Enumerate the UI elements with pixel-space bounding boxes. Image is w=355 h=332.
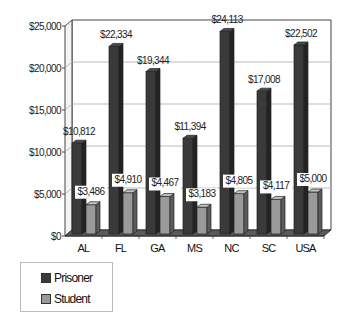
svg-text:$20,000: $20,000 — [29, 63, 62, 74]
svg-text:$4,467: $4,467 — [152, 177, 180, 188]
svg-text:$5,000: $5,000 — [34, 189, 62, 200]
legend-label: Student — [54, 292, 90, 306]
legend-item-prisoner: Prisoner — [41, 271, 92, 285]
bar-prisoner-ga — [146, 69, 160, 234]
svg-text:$4,910: $4,910 — [115, 174, 143, 185]
bar-prisoner-sc — [257, 88, 271, 234]
bar-prisoner-fl — [109, 43, 123, 234]
svg-text:$25,000: $25,000 — [29, 21, 62, 32]
svg-text:$4,805: $4,805 — [226, 175, 254, 186]
svg-text:NC: NC — [224, 242, 239, 254]
bar-student-al — [86, 202, 100, 234]
svg-text:$17,008: $17,008 — [248, 74, 281, 85]
bar-student-ms — [197, 204, 211, 234]
prisoner-swatch-icon — [41, 273, 51, 283]
svg-text:MS: MS — [187, 242, 202, 254]
svg-text:$0: $0 — [51, 231, 62, 242]
svg-text:$15,000: $15,000 — [29, 105, 62, 116]
svg-text:$19,344: $19,344 — [137, 55, 170, 66]
svg-text:USA: USA — [295, 242, 317, 254]
svg-text:$5,000: $5,000 — [300, 173, 328, 184]
bar-student-fl — [123, 190, 137, 234]
bar-student-nc — [234, 191, 248, 234]
y-axis: $0$5,000$10,000$15,000$20,000$25,000 — [29, 21, 65, 242]
svg-text:$3,486: $3,486 — [78, 186, 106, 197]
svg-text:$4,117: $4,117 — [263, 180, 290, 191]
bar-prisoner-nc — [220, 28, 234, 234]
student-swatch-icon — [41, 294, 51, 304]
svg-text:$11,394: $11,394 — [174, 121, 206, 132]
svg-text:FL: FL — [115, 242, 127, 254]
legend-item-student: Student — [41, 292, 90, 306]
svg-text:$22,334: $22,334 — [100, 29, 133, 40]
bar-prisoner-ms — [183, 135, 197, 234]
svg-text:$10,812: $10,812 — [63, 126, 96, 137]
svg-text:$3,183: $3,183 — [189, 188, 217, 199]
svg-text:$10,000: $10,000 — [29, 147, 62, 158]
svg-text:AL: AL — [78, 242, 91, 254]
legend-label: Prisoner — [54, 271, 92, 285]
svg-text:SC: SC — [262, 242, 277, 254]
svg-text:$22,502: $22,502 — [285, 28, 318, 39]
bar-student-ga — [160, 193, 174, 234]
svg-text:$24,113: $24,113 — [211, 14, 243, 25]
legend: Prisoner Student — [20, 262, 113, 312]
bar-student-usa — [308, 189, 322, 234]
svg-text:GA: GA — [150, 242, 166, 254]
bar-prisoner-usa — [294, 42, 308, 234]
bar-student-sc — [271, 196, 285, 234]
x-axis: ALFLGAMSNCSCUSA — [65, 236, 324, 254]
